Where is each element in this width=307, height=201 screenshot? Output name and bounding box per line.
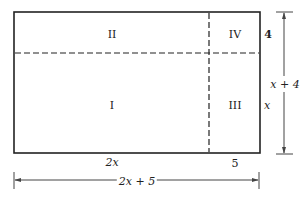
area-model-diagram	[0, 0, 307, 201]
left-width-label: 2x	[105, 157, 118, 168]
total-height-label: x + 4	[268, 79, 301, 90]
top-height-label: 4	[264, 29, 272, 40]
outer-rectangle	[14, 12, 260, 153]
region-label-I: I	[110, 100, 114, 111]
region-label-III: III	[228, 100, 241, 111]
total-width-label: 2x + 5	[117, 176, 157, 187]
region-label-IV: IV	[229, 29, 241, 40]
bottom-height-label: x	[264, 100, 270, 111]
right-width-label: 5	[232, 158, 239, 169]
region-label-II: II	[108, 29, 117, 40]
